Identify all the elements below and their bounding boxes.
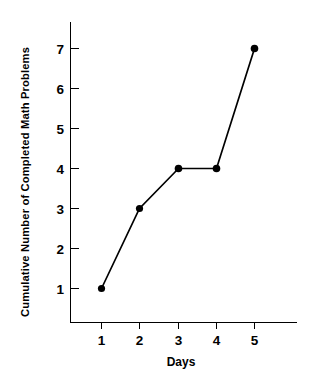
- x-tick-label-3: 3: [175, 333, 183, 348]
- y-axis-title: Cumulative Number of Completed Math Prob…: [19, 47, 31, 317]
- data-point-marker: [213, 165, 221, 173]
- y-tick-label-4: 4: [56, 162, 64, 177]
- data-point-marker: [98, 285, 105, 292]
- data-point-marker: [175, 165, 183, 173]
- x-tick-label-1: 1: [98, 333, 106, 348]
- x-tick-label-4: 4: [213, 333, 221, 348]
- y-tick-label-3: 3: [56, 202, 64, 217]
- y-tick-label-2: 2: [56, 242, 64, 257]
- y-tick-label-5: 5: [56, 122, 64, 137]
- x-tick-label-2: 2: [136, 333, 144, 348]
- x-tick-label-5: 5: [251, 333, 259, 348]
- x-axis-title: Days: [167, 355, 196, 369]
- y-tick-label-1: 1: [56, 282, 64, 297]
- y-tick-label-7: 7: [56, 42, 64, 57]
- line-chart-figure: 7 6 5 4 3 2 1 1 2 3 4 5 Days Cumulative …: [0, 0, 309, 381]
- data-point-marker: [251, 45, 259, 53]
- y-tick-label-6: 6: [56, 82, 64, 97]
- data-point-marker: [136, 205, 143, 212]
- chart-canvas: 7 6 5 4 3 2 1 1 2 3 4 5 Days Cumulative …: [0, 0, 309, 381]
